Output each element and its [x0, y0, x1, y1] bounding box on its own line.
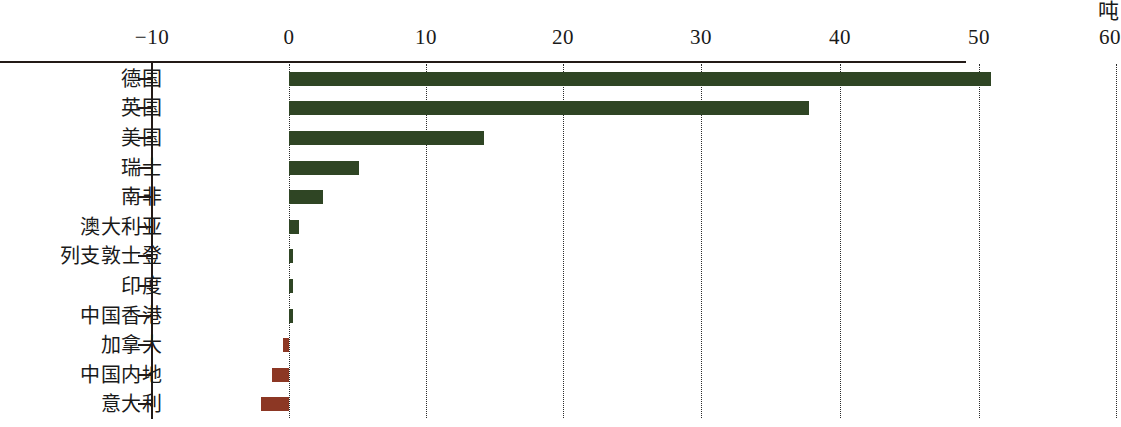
bar-value — [272, 368, 289, 382]
unit-label: 吨 — [1098, 0, 1119, 22]
bar-row: 德国 — [0, 64, 1121, 94]
y-tick-mark — [138, 167, 152, 169]
category-label: 加拿大 — [101, 334, 163, 356]
bar-row: 南非 — [0, 182, 1121, 212]
y-tick-mark — [138, 344, 152, 346]
category-label: 意大利 — [101, 393, 163, 415]
bar-row: 加拿大 — [0, 330, 1121, 360]
x-tick-label-0: 0 — [284, 26, 295, 48]
bar-value — [289, 131, 484, 145]
bar-value — [289, 72, 991, 86]
x-tick-label-50: 50 — [968, 26, 990, 48]
bar-row: 中国香港 — [0, 301, 1121, 331]
bar-row: 意大利 — [0, 390, 1121, 420]
bar-value — [289, 249, 293, 263]
y-tick-mark — [138, 196, 152, 198]
y-tick-mark — [138, 255, 152, 257]
x-tick-label-neg10: −10 — [135, 26, 169, 48]
bar-row: 中国内地 — [0, 360, 1121, 390]
y-tick-mark — [138, 403, 152, 405]
y-tick-mark — [138, 315, 152, 317]
axis-top-line — [0, 61, 966, 63]
bar-value — [261, 397, 289, 411]
horizontal-bar-chart: 吨 −10 0 10 20 30 40 50 60 德国 英国 美国 瑞士 南非 — [0, 0, 1121, 427]
bar-row: 英国 — [0, 94, 1121, 124]
x-tick-label-10: 10 — [415, 26, 437, 48]
y-tick-mark — [138, 285, 152, 287]
bar-value — [289, 161, 359, 175]
bar-value — [289, 279, 293, 293]
bar-row: 列支敦士登 — [0, 242, 1121, 272]
bar-value — [289, 220, 299, 234]
bar-value — [289, 309, 293, 323]
bar-value — [289, 101, 809, 115]
bar-row: 澳大利亚 — [0, 212, 1121, 242]
bar-row: 美国 — [0, 123, 1121, 153]
x-tick-label-60: 60 — [1099, 26, 1121, 48]
bar-value — [289, 190, 323, 204]
bar-row: 印度 — [0, 271, 1121, 301]
y-tick-mark — [138, 137, 152, 139]
y-tick-mark — [138, 78, 152, 80]
y-tick-mark — [138, 374, 152, 376]
x-tick-label-30: 30 — [690, 26, 712, 48]
x-tick-label-40: 40 — [829, 26, 851, 48]
bar-value — [283, 338, 289, 352]
x-tick-label-20: 20 — [552, 26, 574, 48]
y-tick-mark — [138, 226, 152, 228]
bar-row: 瑞士 — [0, 153, 1121, 183]
y-tick-mark — [138, 107, 152, 109]
